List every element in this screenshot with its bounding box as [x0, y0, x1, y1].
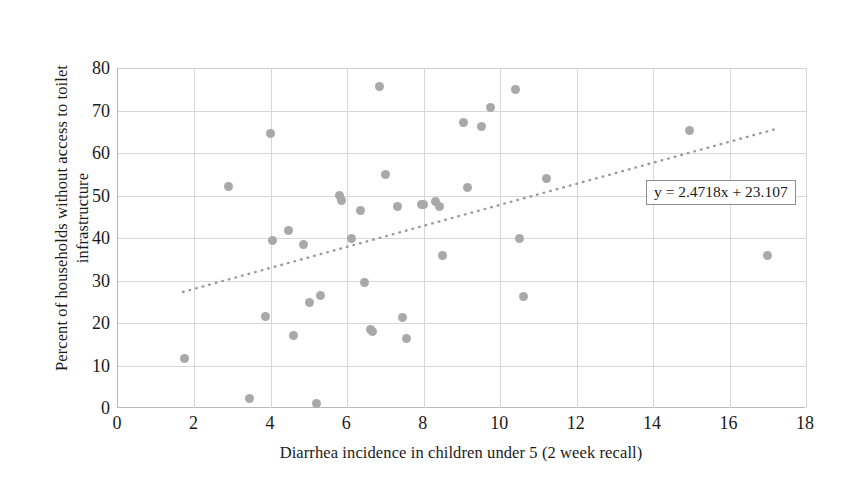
- data-point: [542, 174, 551, 183]
- data-point: [393, 202, 402, 211]
- x-tick-label: 0: [97, 414, 137, 432]
- data-point: [368, 327, 377, 336]
- x-tick-label: 14: [632, 414, 672, 432]
- y-axis-tick-labels: 01020304050607080: [76, 0, 110, 485]
- x-axis-tick-labels: 024681012141618: [117, 414, 805, 440]
- x-axis-title: Diarrhea incidence in children under 5 (…: [117, 443, 805, 463]
- y-tick-label: 50: [78, 187, 110, 205]
- gridline-vertical: [806, 68, 807, 408]
- trendline-equation-box: y = 2.4718x + 23.107: [646, 180, 796, 205]
- y-tick-label: 80: [78, 59, 110, 77]
- data-point: [347, 234, 356, 243]
- data-point: [268, 236, 277, 245]
- data-point: [685, 126, 694, 135]
- trendline-equation-text: y = 2.4718x + 23.107: [654, 183, 788, 200]
- data-point: [316, 291, 325, 300]
- data-point: [224, 182, 233, 191]
- y-tick-label: 20: [78, 314, 110, 332]
- x-tick-label: 8: [403, 414, 443, 432]
- data-point: [305, 298, 314, 307]
- x-tick-label: 12: [556, 414, 596, 432]
- x-tick-label: 10: [479, 414, 519, 432]
- data-point: [435, 202, 444, 211]
- data-point: [511, 85, 520, 94]
- x-tick-label: 18: [785, 414, 825, 432]
- scatter-chart: Percent of households without access to …: [0, 0, 852, 485]
- x-tick-label: 6: [326, 414, 366, 432]
- data-point: [419, 200, 428, 209]
- data-point: [477, 122, 486, 131]
- x-tick-label: 4: [250, 414, 290, 432]
- data-point: [299, 240, 308, 249]
- data-point: [381, 170, 390, 179]
- y-tick-label: 70: [78, 102, 110, 120]
- y-tick-label: 30: [78, 272, 110, 290]
- y-tick-label: 10: [78, 357, 110, 375]
- plot-area: [117, 68, 805, 408]
- data-point: [519, 292, 528, 301]
- data-point: [266, 129, 275, 138]
- data-point: [284, 226, 293, 235]
- y-axis-title-line1: Percent of households without access to …: [51, 65, 72, 371]
- x-tick-label: 16: [709, 414, 749, 432]
- data-point: [261, 312, 270, 321]
- y-tick-label: 60: [78, 144, 110, 162]
- y-tick-label: 40: [78, 229, 110, 247]
- x-tick-label: 2: [173, 414, 213, 432]
